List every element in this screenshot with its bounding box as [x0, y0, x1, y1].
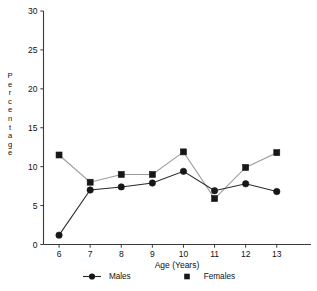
- x-tick-label: 8: [119, 249, 124, 259]
- legend-label-males: Males: [109, 272, 131, 281]
- y-tick-label: 20: [28, 84, 38, 94]
- data-point-females: [243, 164, 249, 170]
- chart-axes: [44, 11, 312, 245]
- line-chart-plot: 051015202530 678910111213 Age (Years): [0, 0, 317, 291]
- data-point-males: [242, 181, 248, 187]
- data-point-females: [149, 171, 155, 177]
- data-point-males: [274, 188, 280, 194]
- y-tick-label: 30: [28, 6, 38, 16]
- x-tick-label: 7: [88, 249, 93, 259]
- data-point-males: [118, 184, 124, 190]
- data-point-males: [87, 187, 93, 193]
- x-tick-label: 10: [179, 249, 189, 259]
- data-point-males: [56, 232, 62, 238]
- y-axis-ticks: 051015202530: [28, 6, 43, 250]
- data-point-females: [212, 196, 218, 202]
- data-point-females: [118, 171, 124, 177]
- x-axis-ticks: 678910111213: [57, 245, 282, 260]
- chart-figure: 051015202530 678910111213 Age (Years) Pe…: [0, 0, 317, 291]
- data-point-males: [180, 168, 186, 174]
- data-point-females: [56, 152, 62, 158]
- y-tick-label: 0: [33, 240, 38, 250]
- data-point-females: [87, 179, 93, 185]
- x-axis-title: Age (Years): [155, 260, 200, 270]
- y-tick-label: 25: [28, 45, 38, 55]
- circle-marker-icon: [82, 272, 102, 281]
- x-tick-label: 11: [210, 249, 219, 259]
- y-axis-title-letter: e: [4, 149, 16, 158]
- data-point-females: [274, 150, 280, 156]
- data-point-males: [211, 188, 217, 194]
- data-point-males: [149, 180, 155, 186]
- data-point-females: [180, 149, 186, 155]
- y-tick-label: 10: [28, 162, 38, 172]
- x-tick-label: 9: [150, 249, 155, 259]
- y-axis-title: Percentage: [4, 72, 16, 158]
- legend-item-males: Males: [82, 272, 131, 281]
- series-markers: [56, 149, 280, 238]
- square-marker-icon: [177, 272, 197, 281]
- chart-legend: Males Females: [0, 272, 317, 281]
- x-tick-label: 6: [57, 249, 62, 259]
- x-tick-label: 13: [272, 249, 282, 259]
- y-tick-label: 5: [33, 201, 38, 211]
- legend-label-females: Females: [204, 272, 235, 281]
- legend-item-females: Females: [177, 272, 235, 281]
- y-tick-label: 15: [28, 123, 38, 133]
- x-tick-label: 12: [241, 249, 251, 259]
